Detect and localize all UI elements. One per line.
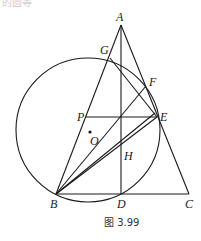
label-d: D bbox=[116, 197, 126, 211]
geometry-figure: A G F P E O H B D C 图 3.99 bbox=[0, 0, 201, 241]
segment-bh-extended bbox=[56, 113, 155, 194]
figure-caption: 图 3.99 bbox=[104, 217, 139, 228]
label-h: H bbox=[123, 149, 134, 163]
label-b: B bbox=[50, 197, 58, 211]
label-o: O bbox=[90, 134, 99, 148]
label-c: C bbox=[185, 197, 194, 211]
label-f: F bbox=[148, 75, 157, 89]
circle-o bbox=[16, 58, 160, 202]
label-g: G bbox=[100, 43, 109, 57]
segment-bf bbox=[56, 86, 146, 194]
segment-ac bbox=[121, 25, 189, 194]
label-a: A bbox=[115, 10, 124, 24]
label-e: E bbox=[159, 110, 168, 124]
label-p: P bbox=[76, 110, 85, 124]
